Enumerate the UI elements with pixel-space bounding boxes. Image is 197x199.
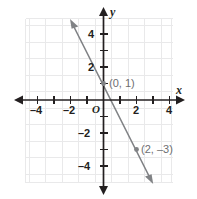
y-tick-label-pos4: 4 xyxy=(88,29,94,40)
point-label-0-1: (0, 1) xyxy=(109,78,135,89)
y-tick-label-neg2: –2 xyxy=(78,128,90,139)
x-tick-label-pos4: 4 xyxy=(166,105,172,116)
axis-arrowheads xyxy=(14,7,185,195)
x-axis-arrow-left xyxy=(14,96,23,105)
y-tick-label-pos2: 2 xyxy=(88,62,94,73)
graph-canvas xyxy=(0,0,197,199)
x-tick-label-pos2: 2 xyxy=(133,105,139,116)
y-axis-arrow xyxy=(99,7,108,16)
line-arrow-up xyxy=(70,19,78,29)
x-tick-label-neg4: –4 xyxy=(30,105,42,116)
y-axis-arrow-down xyxy=(99,186,108,195)
point-label-2-neg3: (2, –3) xyxy=(141,144,173,155)
coordinate-plane-figure: –4 –2 2 4 4 2 –2 –4 O y x (0, 1) (2, –3) xyxy=(0,0,197,199)
axes xyxy=(19,14,178,188)
point-2-neg3 xyxy=(134,147,139,152)
line-arrow-down xyxy=(145,174,153,184)
x-tick-label-neg2: –2 xyxy=(63,105,75,116)
y-axis-label: y xyxy=(110,6,115,18)
origin-label: O xyxy=(92,104,100,115)
point-0-1 xyxy=(101,81,106,86)
x-axis-label: x xyxy=(176,84,182,96)
y-tick-label-neg4: –4 xyxy=(78,161,90,172)
